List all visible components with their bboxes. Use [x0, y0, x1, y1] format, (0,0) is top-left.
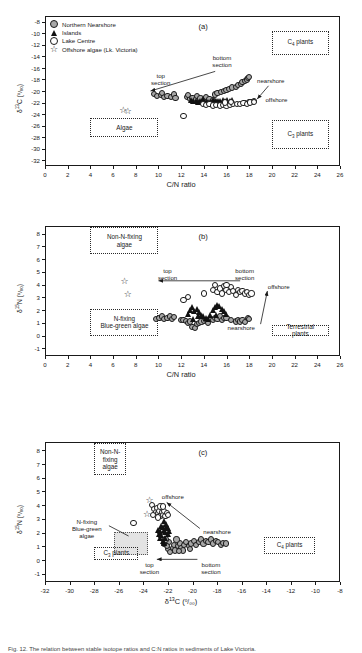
datapoint-b-0-16 [196, 320, 202, 326]
datapoint-c-2-1 [149, 502, 155, 508]
datapoint-b-2-20 [212, 282, 218, 288]
datapoint-c-0-31 [161, 540, 167, 546]
x-tick-label-b-4: 8 [125, 361, 147, 368]
datapoint-b-1-8 [203, 315, 209, 321]
datapoint-c-1-13 [156, 531, 162, 537]
datapoint-a-1-0 [188, 97, 194, 103]
y-tick-label-c-8: 0 [21, 557, 40, 564]
datapoint-a-0-1 [154, 93, 160, 99]
x-tick-label-b-0: 0 [34, 361, 56, 368]
y-tick-c-4 [42, 505, 45, 506]
c3-plants-box: C3 plants [272, 120, 329, 149]
y-tick-label-a-4: -16 [21, 65, 40, 72]
datapoint-a-0-24 [223, 87, 229, 93]
x-axis-label-b: C/N ratio [0, 370, 362, 379]
datapoint-c-2-15 [150, 512, 156, 518]
top-section-label: topsection [148, 268, 188, 282]
datapoint-b-1-12 [212, 304, 218, 310]
datapoint-b-0-2 [159, 313, 165, 319]
datapoint-b-2-1 [185, 294, 191, 300]
datapoint-c-1-15 [163, 521, 169, 527]
nearshore-offshore-arrow [167, 502, 200, 528]
c4-plants-box: C4 plants [264, 537, 316, 553]
datapoint-a-1-17 [227, 98, 233, 104]
datapoint-c-0-5 [175, 543, 181, 549]
x-tick-label-a-2: 4 [79, 171, 101, 178]
datapoint-a-0-26 [229, 84, 235, 90]
non-n-fixing-algae-box: Non-N-fixingalgae [94, 443, 126, 475]
y-tick-b-5 [42, 297, 45, 298]
panel-a: (a)02468101214161820222426-8-10-12-14-16… [0, 0, 362, 653]
datapoint-a-2-0 [180, 113, 186, 119]
datapoint-a-1-13 [217, 98, 223, 104]
datapoint-b-0-28 [223, 315, 229, 321]
datapoint-b-2-16 [242, 290, 248, 296]
y-tick-label-a-11: -30 [21, 145, 40, 152]
datapoint-c-0-21 [213, 538, 219, 544]
region-label: N-fixingBlue-green algae [100, 315, 148, 329]
legend-item-1: Islands [48, 28, 138, 36]
datapoint-c-2-10 [161, 508, 167, 514]
x-tick-c-1 [70, 582, 71, 585]
datapoint-b-2-7 [221, 283, 227, 289]
datapoint-a-0-12 [189, 95, 195, 101]
datapoint-b-0-14 [192, 325, 198, 331]
datapoint-c-1-17 [161, 518, 167, 524]
nearshore-label: nearshore [251, 78, 291, 85]
datapoint-b-0-31 [235, 317, 241, 323]
x-tick-label-a-1: 2 [57, 171, 79, 178]
datapoint-a-0-4 [159, 90, 165, 96]
y-tick-a-6 [42, 91, 45, 92]
datapoint-a-1-19 [200, 96, 206, 102]
datapoint-a-3-1: ☆ [124, 107, 132, 116]
datapoint-b-0-23 [212, 315, 218, 321]
y-tick-label-b-6: 2 [21, 307, 40, 314]
annotation-arrows-b [0, 0, 362, 653]
y-tick-a-3 [42, 56, 45, 57]
c3-plants-box: C3 plants [94, 547, 138, 560]
datapoint-b-2-11 [230, 288, 236, 294]
nearshore-label: nearshore [221, 325, 261, 332]
y-tick-c-0 [42, 450, 45, 451]
x-tick-a-5 [158, 166, 159, 169]
datapoint-c-2-2 [151, 506, 157, 512]
y-tick-label-a-0: -8 [21, 18, 40, 25]
datapoint-a-0-27 [233, 84, 239, 90]
x-tick-c-8 [242, 582, 243, 585]
datapoint-a-0-8 [172, 95, 178, 101]
legend-label-3: Offshore algae (Lk. Victoria) [62, 46, 138, 53]
y-tick-b-7 [42, 323, 45, 324]
x-tick-c-7 [217, 582, 218, 585]
x-tick-a-13 [340, 166, 341, 169]
datapoint-b-1-13 [214, 302, 220, 308]
datapoint-c-1-3 [163, 525, 169, 531]
x-tick-b-1 [68, 356, 69, 359]
datapoint-b-2-17 [244, 289, 250, 295]
datapoint-b-0-18 [201, 318, 207, 324]
y-tick-label-b-4: 4 [21, 281, 40, 288]
y-tick-b-3 [42, 272, 45, 273]
datapoint-c-1-5 [166, 528, 172, 534]
datapoint-a-1-18 [229, 97, 235, 103]
x-tick-label-c-11: -10 [304, 587, 326, 594]
x-tick-label-b-3: 6 [102, 361, 124, 368]
datapoint-b-0-24 [214, 316, 220, 322]
datapoint-a-0-22 [218, 89, 224, 95]
datapoint-b-0-4 [164, 315, 170, 321]
datapoint-c-1-9 [160, 538, 166, 544]
x-tick-b-13 [340, 356, 341, 359]
legend-label-1: Islands [62, 29, 81, 36]
datapoint-b-0-1 [156, 315, 162, 321]
region-label: Terrestrialplants [286, 323, 314, 337]
datapoint-b-1-0 [185, 311, 191, 317]
nearshore-offshore-arrow [257, 86, 268, 99]
datapoint-b-0-22 [210, 317, 216, 323]
datapoint-c-0-23 [218, 542, 224, 548]
datapoint-a-2-15 [247, 99, 253, 105]
datapoint-a-1-20 [210, 97, 216, 103]
datapoint-a-0-6 [168, 94, 174, 100]
datapoint-b-0-21 [208, 316, 214, 322]
datapoint-a-2-17 [222, 99, 228, 105]
datapoint-c-0-24 [220, 540, 226, 546]
x-tick-label-c-6: -20 [182, 587, 204, 594]
